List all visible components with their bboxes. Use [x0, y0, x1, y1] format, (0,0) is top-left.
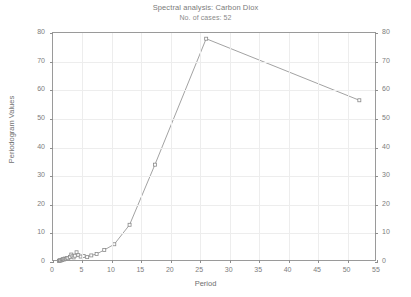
x-axis-label: 20 — [158, 266, 182, 273]
x-axis-tick — [171, 260, 172, 263]
x-axis-tick — [259, 260, 260, 263]
x-axis-label: 55 — [364, 266, 388, 273]
data-point-marker — [95, 252, 98, 255]
y-axis-tick-left — [50, 205, 53, 206]
gridline-vertical — [141, 33, 142, 260]
x-axis-label: 35 — [246, 266, 270, 273]
y-axis-label-right: 50 — [382, 114, 404, 121]
y-axis-tick-right — [375, 33, 378, 34]
y-axis-label-right: 10 — [382, 228, 404, 235]
x-axis-label: 0 — [40, 266, 64, 273]
x-axis-tick — [200, 260, 201, 263]
x-axis-label: 15 — [128, 266, 152, 273]
x-axis-tick — [377, 260, 378, 263]
y-axis-tick-right — [375, 176, 378, 177]
data-point-marker — [128, 223, 131, 226]
y-axis-tick-left — [50, 148, 53, 149]
y-axis-tick-left — [50, 62, 53, 63]
chart-title: Spectral analysis: Carbon Diox — [0, 3, 411, 12]
gridline-vertical — [318, 33, 319, 260]
y-axis-tick-right — [375, 233, 378, 234]
x-axis-tick — [289, 260, 290, 263]
y-axis-label-left: 70 — [23, 57, 45, 64]
y-axis-label-left: 20 — [23, 200, 45, 207]
gridline-horizontal — [53, 176, 375, 177]
y-axis-tick-left — [50, 176, 53, 177]
y-axis-label-right: 20 — [382, 200, 404, 207]
y-axis-label-left: 0 — [23, 257, 45, 264]
series-line — [59, 39, 359, 261]
gridline-horizontal — [53, 148, 375, 149]
y-axis-label-left: 30 — [23, 171, 45, 178]
y-axis-tick-left — [50, 233, 53, 234]
data-point-marker — [113, 243, 116, 246]
gridline-horizontal — [53, 233, 375, 234]
y-axis-label-left: 50 — [23, 114, 45, 121]
gridline-horizontal — [53, 90, 375, 91]
y-axis-label-right: 0 — [382, 257, 404, 264]
data-point-marker — [153, 163, 156, 166]
chart-subtitle: No. of cases: 52 — [0, 14, 411, 21]
gridline-vertical — [289, 33, 290, 260]
y-axis-label-right: 40 — [382, 143, 404, 150]
data-point-marker — [205, 37, 208, 40]
gridline-horizontal — [53, 205, 375, 206]
x-axis-label: 10 — [99, 266, 123, 273]
y-axis-tick-right — [375, 148, 378, 149]
y-axis-label-right: 80 — [382, 28, 404, 35]
data-point-marker — [90, 254, 93, 257]
gridline-vertical — [171, 33, 172, 260]
y-axis-tick-left — [50, 90, 53, 91]
x-axis-tick — [348, 260, 349, 263]
y-axis-label-left: 40 — [23, 143, 45, 150]
y-axis-label-left: 60 — [23, 85, 45, 92]
y-axis-tick-right — [375, 62, 378, 63]
gridline-vertical — [112, 33, 113, 260]
y-axis-tick-left — [50, 119, 53, 120]
x-axis-label: 50 — [335, 266, 359, 273]
x-axis-label: 45 — [305, 266, 329, 273]
y-axis-tick-left — [50, 33, 53, 34]
y-axis-tick-right — [375, 119, 378, 120]
data-point-marker — [103, 248, 106, 251]
y-axis-label-left: 10 — [23, 228, 45, 235]
y-axis-tick-right — [375, 90, 378, 91]
gridline-vertical — [82, 33, 83, 260]
y-axis-label-right: 30 — [382, 171, 404, 178]
x-axis-tick — [318, 260, 319, 263]
x-axis-label: 5 — [69, 266, 93, 273]
x-axis-tick — [53, 260, 54, 263]
plot-area — [52, 32, 376, 261]
x-axis-label: 25 — [187, 266, 211, 273]
data-point-marker — [73, 254, 76, 257]
y-axis-tick-right — [375, 205, 378, 206]
gridline-vertical — [259, 33, 260, 260]
spectral-analysis-chart: Spectral analysis: Carbon Diox No. of ca… — [0, 0, 411, 297]
y-axis-title: Periodogram Values — [7, 70, 16, 190]
y-axis-label-right: 60 — [382, 85, 404, 92]
gridline-vertical — [230, 33, 231, 260]
gridline-vertical — [200, 33, 201, 260]
x-axis-tick — [112, 260, 113, 263]
x-axis-label: 30 — [217, 266, 241, 273]
data-point-marker — [358, 99, 361, 102]
gridline-horizontal — [53, 62, 375, 63]
x-axis-title: Period — [0, 279, 411, 288]
y-axis-label-left: 80 — [23, 28, 45, 35]
x-axis-label: 40 — [276, 266, 300, 273]
gridline-horizontal — [53, 119, 375, 120]
x-axis-tick — [141, 260, 142, 263]
x-axis-tick — [230, 260, 231, 263]
gridline-vertical — [348, 33, 349, 260]
x-axis-tick — [82, 260, 83, 263]
data-point-marker — [86, 256, 89, 259]
y-axis-label-right: 70 — [382, 57, 404, 64]
